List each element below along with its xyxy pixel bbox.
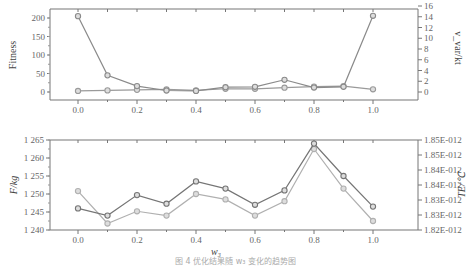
fitness-marker	[341, 84, 346, 89]
fitness-marker	[105, 73, 110, 78]
v-var-marker	[282, 85, 287, 90]
y2-axis-title: TE/℃	[456, 170, 467, 197]
te-marker	[164, 213, 169, 218]
f-marker	[311, 141, 316, 146]
x-tick-label: 0.4	[190, 235, 202, 245]
y2-tick-label: 6	[424, 55, 429, 65]
fitness-marker	[134, 83, 139, 88]
top-chart: 05010015020002468101214160.00.20.40.60.8…	[7, 1, 464, 115]
y2-tick-label: 16	[424, 1, 434, 11]
f-marker	[370, 204, 375, 209]
fitness-marker	[75, 14, 80, 19]
y2-tick-label: 1.85E-012	[424, 150, 462, 160]
fitness-marker	[223, 85, 228, 90]
te-marker	[223, 197, 228, 202]
x-tick-label: 0.2	[131, 105, 142, 115]
y-axis-title: Fitness	[7, 41, 18, 69]
y2-tick-label: 10	[424, 33, 434, 43]
fitness-marker	[164, 88, 169, 93]
y2-tick-label: 1.83E-012	[424, 210, 462, 220]
fitness-marker	[193, 88, 198, 93]
y-tick-label: 1 255	[24, 171, 45, 181]
v-var-marker	[370, 87, 375, 92]
fitness-marker	[252, 84, 257, 89]
f-marker	[341, 173, 346, 178]
fitness-line	[78, 16, 373, 91]
x-tick-label: 0.4	[190, 105, 202, 115]
x-tick-label: 0.0	[72, 105, 84, 115]
figure: 05010015020002468101214160.00.20.40.60.8…	[0, 0, 471, 269]
x-tick-label: 0.2	[131, 235, 142, 245]
f-marker	[252, 202, 257, 207]
te-marker	[282, 199, 287, 204]
y2-tick-label: 1.85E-012	[424, 135, 462, 145]
te-marker	[134, 209, 139, 214]
y2-tick-label: 0	[424, 87, 429, 97]
y-axis-title: F/kg	[8, 176, 19, 195]
x-tick-label: 0.6	[249, 105, 261, 115]
y2-tick-label: 1.82E-012	[424, 225, 462, 235]
x-tick-label: 1.0	[367, 235, 379, 245]
x-tick-label: 1.0	[367, 105, 379, 115]
f-marker	[223, 186, 228, 191]
y-tick-label: 150	[32, 32, 46, 42]
y-tick-label: 50	[36, 69, 46, 79]
x-tick-label: 0.0	[72, 235, 84, 245]
f-marker	[282, 188, 287, 193]
f-marker	[193, 179, 198, 184]
te-marker	[75, 189, 80, 194]
y-tick-label: 1 265	[24, 135, 45, 145]
fitness-marker	[370, 13, 375, 18]
y-tick-label: 1 260	[24, 153, 45, 163]
x-tick-label: 0.8	[308, 105, 320, 115]
te-marker	[193, 191, 198, 196]
v-var-marker	[75, 88, 80, 93]
te-marker	[370, 218, 375, 223]
fitness-marker	[311, 85, 316, 90]
y-tick-label: 1 250	[24, 189, 45, 199]
f-marker	[134, 192, 139, 197]
fitness-marker	[282, 77, 287, 82]
f-marker	[75, 206, 80, 211]
v-var-marker	[105, 88, 110, 93]
te-marker	[341, 186, 346, 191]
f-marker	[164, 201, 169, 206]
y-tick-label: 100	[32, 50, 46, 60]
y2-tick-label: 2	[424, 76, 429, 86]
x-tick-label: 0.8	[308, 235, 320, 245]
y2-axis-title: v_var/kt	[453, 31, 464, 65]
y-tick-label: 1 240	[24, 225, 45, 235]
x-tick-label: 0.6	[249, 235, 261, 245]
f-marker	[105, 213, 110, 218]
y2-tick-label: 4	[424, 66, 429, 76]
f-line	[78, 144, 373, 216]
y-tick-label: 200	[32, 13, 46, 23]
y2-tick-label: 12	[424, 23, 433, 33]
y2-tick-label: 8	[424, 44, 429, 54]
y-tick-label: 1 245	[24, 207, 45, 217]
y2-tick-label: 14	[424, 12, 434, 22]
te-marker	[252, 213, 257, 218]
y-tick-label: 0	[41, 87, 46, 97]
figure-caption: 图 4 优化结果随 w₃ 变化的趋势图	[0, 255, 471, 266]
bottom-chart: 1 2401 2451 2501 2551 2601 2651.82E-0121…	[8, 135, 467, 257]
te-marker	[105, 221, 110, 226]
